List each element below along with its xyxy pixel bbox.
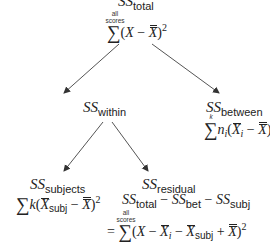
var-x: X [160,224,169,239]
op-minus: − [171,224,186,239]
paren: ) [91,197,96,212]
subscript-i: i [241,128,244,139]
ss-symbol: SS [172,192,186,207]
sigma-icon: ∑ [204,119,218,140]
sigma-icon: ∑ [16,194,30,215]
subject-mean: X [186,224,195,240]
var-x: X [82,197,91,212]
node-ss-subjects-formula: ∑k(Xsubj − X)2 [16,192,101,214]
var-x: X [228,224,237,239]
op-minus: − [157,192,172,207]
sigma-icon: ∑ [118,221,132,242]
var-x: X [137,224,146,239]
var-x: X [40,197,49,212]
ss-symbol: SS [142,176,157,192]
exponent: 2 [96,194,101,205]
node-ss-subjects-label: SSsubjects [30,176,85,193]
node-ss-residual-formula: = ∑(X − Xi − Xsubj + X)2 [107,219,246,241]
arrow-total-to-within [64,44,119,93]
node-ss-total-formula: ∑(X − X)2 [107,20,167,42]
ss-symbol: SS [122,192,136,207]
arrow-within-to-subjects [64,122,103,171]
ss-symbol: SS [216,192,230,207]
subscript-subj: subj [49,203,67,214]
grand-mean: X [149,25,158,41]
node-ss-total-label: SStotal [118,0,154,10]
sigma-icon: ∑ [107,22,121,43]
var-x: X [149,25,158,40]
arrow-within-to-residual [112,122,148,171]
node-ss-residual-label: SSresidual [142,176,196,193]
group-mean: X [232,122,241,138]
subscript-subj: subj [195,230,213,241]
group-mean: X [160,224,169,240]
subscript-within: within [98,106,126,118]
exponent: 2 [162,22,167,33]
subscript-total: total [136,198,157,210]
exponent: 2 [241,221,246,232]
subscript-subj: subj [230,198,250,210]
var-x: X [125,25,134,40]
ss-symbol: SS [83,99,98,115]
subject-mean: X [40,197,49,213]
var-n: n [218,122,225,137]
node-ss-residual-identity: SStotal − SSbet − SSsubj [122,192,250,208]
var-x: X [232,122,241,137]
ss-symbol: SS [118,0,133,9]
arrow-total-to-between [152,44,219,93]
subscript-bet: bet [186,198,201,210]
op-equals: = [107,224,115,239]
grand-mean: X [258,122,267,138]
node-ss-between-formula: ∑ni(Xi − X)2 [204,117,270,139]
op-minus: − [134,25,149,40]
grand-mean: X [82,197,91,213]
paren: ) [267,122,270,137]
var-x: X [258,122,267,137]
ss-symbol: SS [30,176,45,192]
var-x: X [186,224,195,239]
subscript-total: total [133,0,154,12]
ss-symbol: SS [206,99,221,115]
op-minus: − [145,224,160,239]
subscript-i: i [225,128,228,139]
grand-mean: X [228,224,237,240]
op-minus: − [243,122,258,137]
op-minus: − [201,192,216,207]
op-plus: + [213,224,228,239]
op-minus: − [67,197,82,212]
node-ss-within-label: SSwithin [83,99,126,116]
